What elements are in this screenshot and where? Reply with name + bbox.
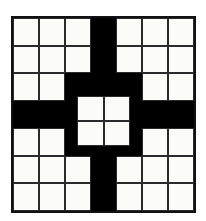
grid-cell-r2-c6 — [142, 46, 168, 74]
grid-cell-r5-c7 — [168, 128, 194, 156]
grid-cell-r3-c6 — [142, 73, 168, 101]
grid-cell-r2-c4 — [91, 46, 117, 74]
grid-cell-r6-c7 — [168, 156, 194, 184]
grid-cell-r3-c1 — [13, 73, 39, 101]
grid-cell-r7-c4 — [91, 183, 117, 211]
grid-cell-r3-c2 — [39, 73, 65, 101]
pattern-figure — [0, 0, 206, 221]
center-cell-r2-c2 — [104, 121, 131, 146]
grid-cell-r4-c1 — [13, 101, 39, 129]
grid-cell-r2-c7 — [168, 46, 194, 74]
grid-cell-r6-c6 — [142, 156, 168, 184]
grid-cell-r7-c2 — [39, 183, 65, 211]
grid-cell-r4-c6 — [142, 101, 168, 129]
grid-cell-r4-c7 — [168, 101, 194, 129]
grid-cell-r5-c2 — [39, 128, 65, 156]
grid-cell-r1-c5 — [116, 18, 142, 46]
grid-cell-r5-c6 — [142, 128, 168, 156]
grid-cell-r6-c4 — [91, 156, 117, 184]
grid-cell-r7-c5 — [116, 183, 142, 211]
grid-cell-r1-c2 — [39, 18, 65, 46]
center-block — [77, 96, 130, 146]
grid-cell-r7-c7 — [168, 183, 194, 211]
grid-cell-r1-c7 — [168, 18, 194, 46]
grid-cell-r5-c1 — [13, 128, 39, 156]
grid-cell-r7-c6 — [142, 183, 168, 211]
grid-cell-r3-c7 — [168, 73, 194, 101]
grid-cell-r1-c6 — [142, 18, 168, 46]
grid-cell-r1-c1 — [13, 18, 39, 46]
grid-cell-r6-c2 — [39, 156, 65, 184]
grid-cell-r6-c5 — [116, 156, 142, 184]
center-cell-r1-c2 — [104, 96, 131, 121]
grid-cell-r4-c2 — [39, 101, 65, 129]
grid-cell-r2-c3 — [65, 46, 91, 74]
grid-cell-r1-c3 — [65, 18, 91, 46]
grid-cell-r2-c2 — [39, 46, 65, 74]
grid-cell-r2-c5 — [116, 46, 142, 74]
center-cell-r2-c1 — [77, 121, 104, 146]
center-cell-r1-c1 — [77, 96, 104, 121]
grid-cell-r7-c3 — [65, 183, 91, 211]
grid-cell-r6-c3 — [65, 156, 91, 184]
grid-cell-r7-c1 — [13, 183, 39, 211]
grid-cell-r1-c4 — [91, 18, 117, 46]
grid-cell-r6-c1 — [13, 156, 39, 184]
grid-cell-r2-c1 — [13, 46, 39, 74]
